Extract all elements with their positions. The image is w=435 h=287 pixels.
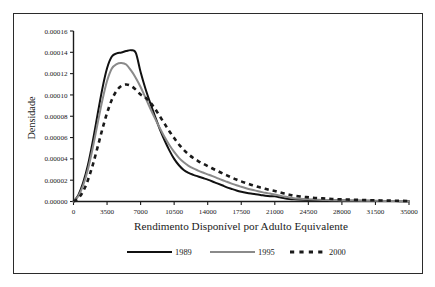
legend-label-2000: 2000 xyxy=(329,248,346,257)
x-tick-label: 17500 xyxy=(232,208,250,216)
y-tick-label: 0.00008 xyxy=(44,113,68,121)
y-tick-label: 0.00014 xyxy=(44,49,68,57)
y-tick-label: 0.00000 xyxy=(44,198,68,206)
x-tick-label: 24500 xyxy=(299,208,317,216)
x-axis-label: Rendimento Disponível por Adulto Equival… xyxy=(134,220,348,232)
x-tick-label: 21000 xyxy=(266,208,284,216)
x-tick-label-group: 0350070001050014000175002100024500280003… xyxy=(72,208,419,216)
x-tick-label: 7000 xyxy=(134,208,149,216)
figure-frame: Densidade 0.000000.000020.000040.000060.… xyxy=(13,13,423,274)
series-line-2000 xyxy=(74,84,410,201)
y-tick-label: 0.00006 xyxy=(44,134,68,142)
tick-mark-group xyxy=(70,31,409,205)
series-line-1989 xyxy=(74,50,410,201)
legend: 1989 1995 2000 xyxy=(127,248,346,257)
y-axis-label: Densidade xyxy=(26,96,37,139)
x-tick-label: 31500 xyxy=(367,208,385,216)
x-tick-label: 3500 xyxy=(100,208,115,216)
x-tick-label: 35000 xyxy=(400,208,418,216)
legend-label-1989: 1989 xyxy=(175,248,192,257)
y-tick-label-group: 0.000000.000020.000040.000060.000080.000… xyxy=(44,28,68,207)
legend-label-1995: 1995 xyxy=(258,248,275,257)
x-tick-label: 10500 xyxy=(165,208,183,216)
y-tick-label: 0.00010 xyxy=(44,92,68,100)
y-tick-label: 0.00004 xyxy=(44,155,68,163)
y-tick-label: 0.00002 xyxy=(44,177,68,185)
y-tick-label: 0.00012 xyxy=(44,70,68,78)
series-line-1995 xyxy=(74,63,410,202)
x-tick-label: 28000 xyxy=(333,208,351,216)
y-tick-label: 0.00016 xyxy=(44,28,68,36)
density-chart: Densidade 0.000000.000020.000040.000060.… xyxy=(14,14,422,273)
x-tick-label: 0 xyxy=(72,208,76,216)
x-tick-label: 14000 xyxy=(199,208,217,216)
